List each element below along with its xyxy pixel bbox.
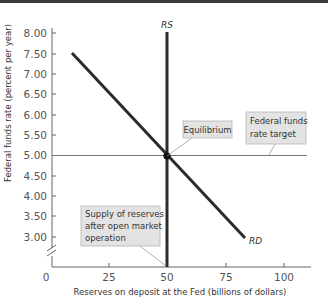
y-tick-label: 7.00 (24, 68, 47, 80)
y-tick-label: 5.00 (24, 149, 47, 161)
y-tick-label: 6.50 (24, 88, 47, 100)
y-tick-label: 6.00 (24, 109, 47, 121)
y-tick-label: 5.50 (24, 129, 47, 141)
x-tick-label: 0 (43, 271, 50, 283)
supply-note-line3: operation (85, 233, 126, 243)
x-ticks (109, 263, 284, 267)
x-tick-label: 50 (160, 271, 173, 283)
y-tick-label: 3.00 (24, 231, 47, 243)
y-tick-label: 8.00 (24, 27, 47, 39)
x-tick-label: 75 (219, 271, 232, 283)
y-tick-label: 4.00 (24, 190, 47, 202)
fed-funds-chart: Federal funds rate (percent per year) 8.… (0, 0, 328, 308)
rs-label: RS (161, 20, 173, 30)
supply-note-line2: after open market (85, 221, 163, 231)
y-tick-label: 7.50 (24, 48, 47, 60)
y-axis-title: Federal funds rate (percent per year) (3, 24, 13, 182)
supply-pointer (140, 246, 166, 266)
supply-note-line1: Supply of reserves (85, 209, 165, 219)
y-tick-labels: 8.00 7.50 7.00 6.50 6.00 5.50 5.00 4.50 … (24, 27, 47, 243)
y-ticks (52, 33, 56, 237)
target-note-line1: Federal funds (250, 116, 308, 126)
x-axis-title: Reserves on deposit at the Fed (billions… (74, 287, 287, 297)
y-tick-label: 4.50 (24, 170, 47, 182)
equilibrium-pointer (167, 138, 192, 156)
x-tick-label: 100 (274, 271, 294, 283)
x-tick-labels: 0 25 50 75 100 (43, 271, 294, 283)
y-tick-label: 3.50 (24, 210, 47, 222)
target-note-line2: rate target (250, 129, 296, 139)
x-tick-label: 25 (102, 271, 115, 283)
equilibrium-note-text: Equilibrium (183, 125, 231, 135)
target-pointer (269, 144, 275, 155)
rd-label: RD (249, 236, 262, 246)
